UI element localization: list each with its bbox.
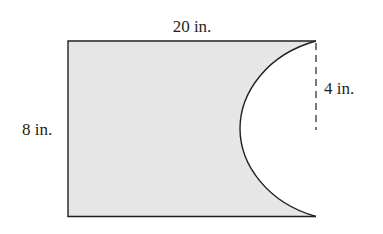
shaded-region bbox=[68, 41, 316, 217]
figure-canvas: 20 in. 8 in. 4 in. bbox=[0, 0, 383, 234]
height-label: 8 in. bbox=[22, 120, 52, 139]
radius-label: 4 in. bbox=[324, 79, 354, 98]
width-label: 20 in. bbox=[173, 17, 212, 36]
